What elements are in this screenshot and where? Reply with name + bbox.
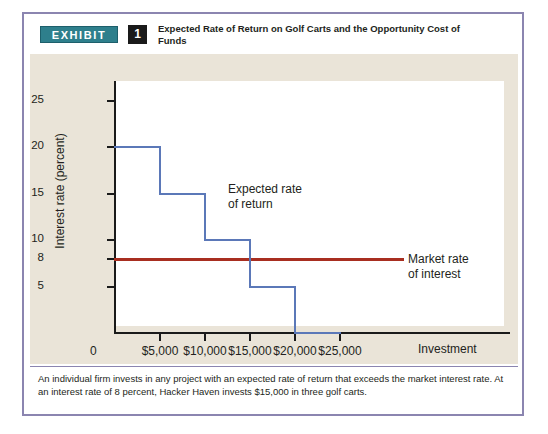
step-drop-10-to-5 [249,239,251,288]
exhibit-caption: An individual firm invests in any projec… [38,372,510,398]
y-tick-label-10: 10 [4,232,44,244]
step-segment-0pct [294,332,341,334]
y-tick-25 [107,100,115,102]
market-rate-of-interest-line [114,258,404,261]
exhibit-badge: EXHIBIT [40,26,118,43]
exhibit-frame: EXHIBIT 1 Expected Rate of Return on Gol… [22,12,524,416]
step-drop-5-to-0 [294,286,296,334]
annotation-line-1: Expected rate [228,182,302,197]
annotation-line-2: of interest [408,267,469,282]
annotation-line-2: of return [228,197,302,212]
exhibit-number-badge: 1 [128,25,147,44]
y-tick-label-5: 5 [4,279,44,291]
plot-area [114,81,504,326]
x-tick-5000 [159,334,161,341]
step-drop-15-to-10 [204,193,206,241]
page-title: Expected Rate of Return on Golf Carts an… [158,23,488,47]
x-tick-25000 [339,334,341,341]
step-segment-10pct [204,239,251,241]
chart-panel: 25 20 15 10 8 5 $5,000 $10,000 $15,000 $… [30,54,518,364]
y-tick-10 [107,239,115,241]
step-segment-5pct [249,286,296,288]
y-axis-title: Interest rate (percent) [53,101,67,281]
x-tick-20000 [294,334,296,341]
x-tick-15000 [249,334,251,341]
y-tick-label-15: 15 [4,186,44,198]
y-axis [114,81,116,334]
expected-rate-of-return-annotation: Expected rate of return [228,182,302,212]
x-tick-label-25000: $25,000 [307,344,373,358]
y-tick-label-8: 8 [4,251,44,263]
caption-divider [30,366,518,367]
step-segment-20pct [114,146,161,148]
step-drop-20-to-15 [159,146,161,195]
annotation-line-1: Market rate [408,252,469,267]
exhibit-header: EXHIBIT 1 Expected Rate of Return on Gol… [24,14,522,54]
x-axis-title: Investment [418,342,477,356]
step-segment-15pct [159,193,206,195]
y-tick-label-25: 25 [4,93,44,105]
y-tick-5 [107,286,115,288]
market-rate-of-interest-annotation: Market rate of interest [408,252,469,282]
x-tick-10000 [204,334,206,341]
y-tick-label-20: 20 [4,139,44,151]
y-tick-15 [107,193,115,195]
origin-label: 0 [90,344,97,358]
